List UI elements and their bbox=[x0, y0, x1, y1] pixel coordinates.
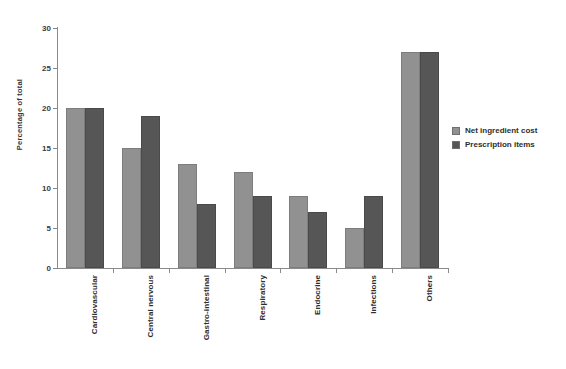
x-axis-tick-mark bbox=[448, 268, 449, 273]
x-axis-tick-mark bbox=[113, 268, 114, 273]
x-axis-tick-mark bbox=[169, 268, 170, 273]
bar-group bbox=[178, 28, 216, 268]
bar-group bbox=[345, 28, 383, 268]
x-axis-tick-mark bbox=[280, 268, 281, 273]
bar-group bbox=[234, 28, 272, 268]
y-axis-tick-label: 10 bbox=[0, 184, 51, 193]
bar-chart: Percentage of total 051015202530 Net ing… bbox=[0, 0, 566, 369]
x-axis-tick-mark bbox=[392, 268, 393, 273]
y-axis-tick-mark bbox=[53, 228, 58, 229]
bar[interactable] bbox=[197, 204, 216, 268]
legend-item-label: Net ingredient cost bbox=[465, 126, 537, 135]
y-axis-tick-mark bbox=[53, 188, 58, 189]
bar[interactable] bbox=[401, 52, 420, 268]
legend-item: Prescription items bbox=[452, 140, 537, 149]
bar[interactable] bbox=[289, 196, 308, 268]
legend-swatch-icon bbox=[452, 127, 460, 135]
x-axis-tick-mark bbox=[336, 268, 337, 273]
legend-swatch-icon bbox=[452, 141, 460, 149]
y-axis-tick-mark bbox=[53, 108, 58, 109]
bar-group bbox=[401, 28, 439, 268]
y-axis-tick-label: 15 bbox=[0, 144, 51, 153]
x-axis-line bbox=[57, 268, 448, 269]
x-axis-category-label: Others bbox=[425, 275, 434, 301]
y-axis-tick-mark bbox=[53, 28, 58, 29]
x-axis-category-label: Infections bbox=[369, 275, 378, 314]
x-axis-category-label: Endocrine bbox=[313, 275, 322, 315]
y-axis-label: Percentage of total bbox=[15, 60, 24, 170]
x-axis-category-label: Cardiovascular bbox=[90, 275, 99, 334]
bar[interactable] bbox=[345, 228, 364, 268]
x-axis-category-label: Respiratory bbox=[258, 275, 267, 321]
bar[interactable] bbox=[85, 108, 104, 268]
y-axis-tick-label: 30 bbox=[0, 24, 51, 33]
y-axis-tick-label: 20 bbox=[0, 104, 51, 113]
bar[interactable] bbox=[178, 164, 197, 268]
x-axis-category-label: Central nervous bbox=[146, 275, 155, 337]
bar[interactable] bbox=[122, 148, 141, 268]
bar[interactable] bbox=[420, 52, 439, 268]
y-axis-tick-mark bbox=[53, 268, 58, 269]
bar-group bbox=[66, 28, 104, 268]
bar-group bbox=[122, 28, 160, 268]
bar[interactable] bbox=[308, 212, 327, 268]
plot-area: 051015202530 bbox=[57, 28, 448, 268]
bar[interactable] bbox=[253, 196, 272, 268]
bar-group bbox=[289, 28, 327, 268]
bar[interactable] bbox=[364, 196, 383, 268]
x-axis-tick-mark bbox=[225, 268, 226, 273]
legend-item: Net ingredient cost bbox=[452, 126, 537, 135]
bar[interactable] bbox=[66, 108, 85, 268]
legend-item-label: Prescription items bbox=[465, 140, 535, 149]
y-axis-tick-label: 0 bbox=[0, 264, 51, 273]
x-axis-category-label: Gastro-intestinal bbox=[202, 275, 211, 340]
y-axis-tick-label: 25 bbox=[0, 64, 51, 73]
chart-legend: Net ingredient cost Prescription items bbox=[452, 126, 537, 154]
y-axis-tick-mark bbox=[53, 68, 58, 69]
bar[interactable] bbox=[234, 172, 253, 268]
y-axis-tick-mark bbox=[53, 148, 58, 149]
y-axis-tick-label: 5 bbox=[0, 224, 51, 233]
bar[interactable] bbox=[141, 116, 160, 268]
